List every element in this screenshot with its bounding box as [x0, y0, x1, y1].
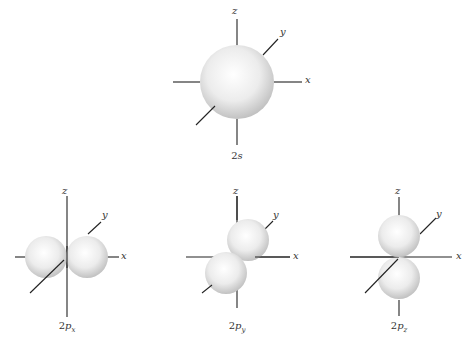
- lobe-positive-x: [66, 236, 108, 278]
- lobe-negative-z: [378, 257, 420, 299]
- lobe-negative-y: [205, 252, 247, 294]
- y-axis-label: y: [273, 210, 279, 220]
- z-axis-label: z: [62, 186, 67, 196]
- caption-2px: 2px: [59, 321, 76, 334]
- orbital-2s: [173, 19, 302, 145]
- x-axis-label: x: [305, 75, 311, 85]
- z-axis-label: z: [232, 6, 237, 16]
- orbital-diagram: z y x 2s z y x 2px z y x 2py z y x 2pz: [0, 0, 468, 340]
- lobe-negative-x: [25, 236, 67, 278]
- y-axis-label: y: [102, 210, 108, 220]
- x-axis-label: x: [121, 251, 127, 261]
- z-axis-label: z: [233, 186, 238, 196]
- caption-2py: 2py: [229, 321, 246, 334]
- y-axis: [420, 218, 436, 234]
- caption-2pz: 2pz: [391, 321, 407, 334]
- x-axis-label: x: [293, 251, 299, 261]
- z-axis-label: z: [395, 186, 400, 196]
- y-axis: [263, 39, 278, 55]
- caption-2s: 2s: [231, 151, 243, 161]
- lobe-positive-z: [378, 215, 420, 257]
- x-axis-label: x: [456, 251, 462, 261]
- s-sphere: [200, 45, 274, 119]
- y-axis-label: y: [280, 27, 286, 37]
- orbital-drawing: [0, 0, 468, 340]
- y-axis: [88, 222, 101, 234]
- y-axis-label: y: [436, 209, 442, 219]
